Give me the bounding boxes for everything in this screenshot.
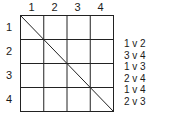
match-item: 2 v 3 bbox=[124, 96, 146, 108]
match-item: 3 v 4 bbox=[124, 50, 146, 62]
match-item: 1 v 4 bbox=[124, 84, 146, 96]
match-list: 1 v 2 3 v 4 1 v 3 2 v 4 1 v 4 2 v 3 bbox=[124, 38, 146, 108]
match-item: 2 v 4 bbox=[124, 73, 146, 85]
match-item: 1 v 2 bbox=[124, 38, 146, 50]
match-item: 1 v 3 bbox=[124, 61, 146, 73]
